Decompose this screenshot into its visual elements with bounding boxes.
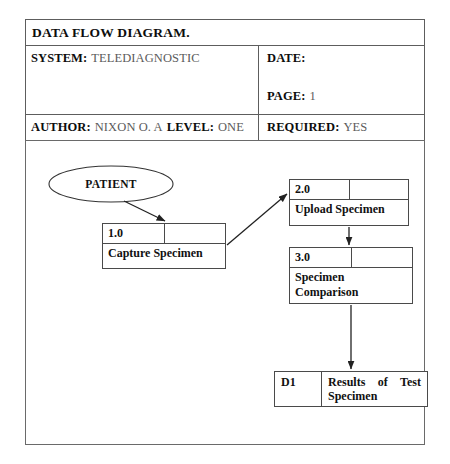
page-line: PAGE:1 (267, 89, 316, 103)
page-value: 1 (309, 89, 315, 103)
process-name: Specimen Comparison (290, 268, 412, 299)
page-title: DATA FLOW DIAGRAM. (32, 25, 190, 41)
process-box-capture-specimen: 1.0 Capture Specimen (102, 223, 226, 269)
process-header-row: 3.0 (290, 248, 412, 268)
date-label: DATE: (267, 51, 305, 65)
dfd-document-sheet: DATA FLOW DIAGRAM. SYSTEM: TELEDIAGNOSTI… (0, 0, 450, 464)
required-label: REQUIRED: (267, 120, 339, 134)
header-system-row: SYSTEM: TELEDIAGNOSTIC DATE: PAGE:1 (26, 46, 424, 115)
process-owner-cell (165, 224, 225, 243)
flow-capture-to-upload (227, 194, 287, 245)
header-title-row: DATA FLOW DIAGRAM. (26, 20, 424, 46)
patient-entity-label: PATIENT (49, 166, 173, 202)
data-store-name: Results of Test Specimen (322, 372, 427, 406)
document-header-table: DATA FLOW DIAGRAM. SYSTEM: TELEDIAGNOSTI… (25, 19, 425, 141)
author-label: AUTHOR: (31, 120, 91, 134)
level-label: LEVEL: (167, 120, 214, 134)
page-label: PAGE: (267, 89, 305, 103)
author-level-cell: AUTHOR: NIXON O. A LEVEL: ONE (26, 115, 259, 140)
header-author-row: AUTHOR: NIXON O. A LEVEL: ONE REQUIRED: … (26, 115, 424, 140)
process-box-specimen-comparison: 3.0 Specimen Comparison (289, 247, 413, 304)
process-name: Upload Specimen (290, 200, 408, 217)
level-value: ONE (218, 120, 244, 134)
process-header-row: 2.0 (290, 180, 408, 200)
process-number: 3.0 (290, 248, 352, 267)
process-header-row: 1.0 (103, 224, 225, 244)
date-line: DATE: (267, 51, 309, 65)
required-cell: REQUIRED: YES (259, 115, 424, 140)
process-box-upload-specimen: 2.0 Upload Specimen (289, 179, 409, 226)
system-cell: SYSTEM: TELEDIAGNOSTIC (26, 46, 259, 114)
process-number: 2.0 (290, 180, 350, 199)
diagram-canvas: PATIENT 1.0 Capture Specimen 2.0 Upload … (25, 140, 425, 445)
process-number: 1.0 (103, 224, 165, 243)
required-value: YES (343, 120, 367, 134)
process-name: Capture Specimen (103, 244, 225, 261)
system-value: TELEDIAGNOSTIC (91, 51, 199, 65)
flow-patient-to-capture (124, 201, 165, 221)
date-page-cell: DATE: PAGE:1 (259, 46, 424, 114)
author-value: NIXON O. A (95, 120, 163, 134)
process-owner-cell (352, 248, 412, 267)
data-store-d1: D1 Results of Test Specimen (274, 371, 428, 407)
data-store-code: D1 (275, 372, 322, 406)
diagram-title-cell: DATA FLOW DIAGRAM. (26, 20, 424, 45)
system-label: SYSTEM: (31, 51, 87, 65)
process-owner-cell (350, 180, 408, 199)
